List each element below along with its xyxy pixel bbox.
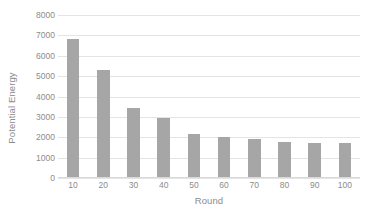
y-axis-tick-labels: 010002000300040005000600070008000 xyxy=(23,0,55,216)
y-tick-label: 8000 xyxy=(23,11,55,20)
y-axis-title: Potential Energy xyxy=(0,0,22,216)
bar xyxy=(278,142,291,178)
x-tick-label: 40 xyxy=(159,180,168,191)
bar xyxy=(218,137,231,178)
x-tick-label: 70 xyxy=(250,180,259,191)
x-tick-label: 80 xyxy=(280,180,289,191)
x-tick-label: 90 xyxy=(310,180,319,191)
bar xyxy=(248,139,261,178)
gridline xyxy=(58,178,360,179)
bar xyxy=(188,134,201,178)
x-tick-label: 50 xyxy=(189,180,198,191)
plot-area xyxy=(58,15,360,178)
bars-series xyxy=(58,15,360,178)
y-tick-label: 4000 xyxy=(23,92,55,101)
bar xyxy=(97,70,110,178)
x-tick-label: 10 xyxy=(68,180,77,191)
x-axis-baseline xyxy=(58,177,360,178)
x-tick-label: 100 xyxy=(338,180,352,191)
bar xyxy=(127,108,140,178)
bar xyxy=(339,143,352,178)
bar xyxy=(67,39,80,178)
y-tick-label: 5000 xyxy=(23,72,55,81)
x-tick-label: 30 xyxy=(129,180,138,191)
bar-chart: Potential Energy 01000200030004000500060… xyxy=(0,0,373,216)
bar xyxy=(157,118,170,178)
bar xyxy=(308,143,321,178)
y-tick-label: 7000 xyxy=(23,31,55,40)
y-tick-label: 2000 xyxy=(23,133,55,142)
y-tick-label: 1000 xyxy=(23,153,55,162)
x-tick-label: 20 xyxy=(99,180,108,191)
y-tick-label: 3000 xyxy=(23,112,55,121)
y-tick-label: 6000 xyxy=(23,51,55,60)
x-axis-tick-labels: 102030405060708090100 xyxy=(58,180,360,194)
x-axis-title: Round xyxy=(58,195,360,206)
x-tick-label: 60 xyxy=(219,180,228,191)
y-tick-label: 0 xyxy=(23,174,55,183)
